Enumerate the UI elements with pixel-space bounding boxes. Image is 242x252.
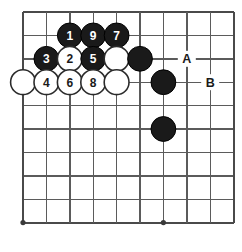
stone-white[interactable] bbox=[104, 46, 129, 71]
stone-move-number: 8 bbox=[90, 76, 97, 90]
point-label-text: B bbox=[206, 76, 215, 90]
stone-body bbox=[151, 70, 176, 95]
stone-black[interactable] bbox=[151, 117, 176, 142]
goban-canvas: AB 197325468 bbox=[0, 0, 242, 252]
stone-black[interactable] bbox=[151, 70, 176, 95]
stone-white-8[interactable]: 8 bbox=[81, 70, 106, 95]
stone-white-6[interactable]: 6 bbox=[57, 70, 82, 95]
stone-body bbox=[104, 46, 129, 71]
point-label-text: A bbox=[182, 52, 191, 66]
go-board-diagram: AB 197325468 bbox=[0, 0, 242, 252]
stone-black[interactable] bbox=[128, 46, 153, 71]
stone-black-7[interactable]: 7 bbox=[104, 23, 129, 48]
stone-move-number: 7 bbox=[113, 29, 120, 43]
star-point bbox=[20, 220, 25, 225]
stone-black-5[interactable]: 5 bbox=[81, 46, 106, 71]
point-label-b: B bbox=[201, 74, 219, 90]
stone-move-number: 3 bbox=[43, 52, 50, 66]
board-grid bbox=[23, 12, 234, 223]
star-point bbox=[161, 220, 166, 225]
stone-move-number: 4 bbox=[43, 76, 50, 90]
stone-black-1[interactable]: 1 bbox=[57, 23, 82, 48]
stone-black-3[interactable]: 3 bbox=[34, 46, 59, 71]
stone-black-9[interactable]: 9 bbox=[81, 23, 106, 48]
stone-body bbox=[104, 70, 129, 95]
stone-move-number: 9 bbox=[90, 29, 97, 43]
point-label-a: A bbox=[178, 51, 196, 67]
stone-white[interactable] bbox=[11, 70, 36, 95]
stone-body bbox=[11, 70, 36, 95]
stone-body bbox=[151, 117, 176, 142]
stone-move-number: 1 bbox=[66, 29, 73, 43]
stone-move-number: 6 bbox=[66, 76, 73, 90]
stone-white-2[interactable]: 2 bbox=[57, 46, 82, 71]
point-labels: AB bbox=[178, 51, 219, 90]
stone-white-4[interactable]: 4 bbox=[34, 70, 59, 95]
stone-white[interactable] bbox=[104, 70, 129, 95]
stone-body bbox=[128, 46, 153, 71]
stone-move-number: 2 bbox=[66, 52, 73, 66]
stone-move-number: 5 bbox=[90, 52, 97, 66]
